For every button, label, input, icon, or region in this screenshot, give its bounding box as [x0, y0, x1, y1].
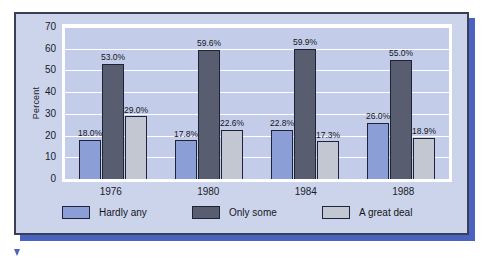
- y-axis-tick-labels: 010203040506070: [32, 27, 56, 179]
- y-tick-label: 30: [32, 109, 56, 119]
- legend-item[interactable]: Hardly any: [62, 206, 192, 219]
- bar-slot: 18.9%: [413, 27, 435, 179]
- bar-slot: 59.6%: [198, 27, 220, 179]
- bar-slot: 26.0%: [367, 27, 389, 179]
- x-tick-label: 1980: [160, 186, 258, 197]
- bar-value-label: 22.6%: [220, 119, 244, 128]
- x-tick-label: 1984: [257, 186, 355, 197]
- bar-value-label: 17.3%: [316, 131, 340, 140]
- bar[interactable]: [271, 130, 293, 180]
- bar[interactable]: [102, 64, 124, 179]
- bar-slot: 22.6%: [221, 27, 243, 179]
- legend: Hardly anyOnly someA great deal: [62, 206, 452, 219]
- chart-area: Percent 010203040506070 18.0%53.0%29.0%1…: [16, 14, 467, 233]
- bar-value-label: 55.0%: [389, 49, 413, 58]
- bar-group: 22.8%59.9%17.3%: [257, 27, 353, 179]
- caption-marker-icon: [14, 249, 20, 256]
- y-tick-label: 60: [32, 44, 56, 54]
- bar-slot: 17.3%: [317, 27, 339, 179]
- x-tick-label: 1988: [355, 186, 453, 197]
- y-tick-label: 0: [32, 174, 56, 184]
- bar-value-label: 26.0%: [366, 112, 390, 121]
- bar-slot: 59.9%: [294, 27, 316, 179]
- bar[interactable]: [390, 60, 412, 179]
- bar-group: 26.0%55.0%18.9%: [353, 27, 449, 179]
- figure: Percent 010203040506070 18.0%53.0%29.0%1…: [0, 0, 487, 265]
- bar-slot: 17.8%: [175, 27, 197, 179]
- bar[interactable]: [79, 140, 101, 179]
- bar[interactable]: [294, 49, 316, 179]
- y-tick-label: 20: [32, 131, 56, 141]
- legend-label: Only some: [229, 207, 277, 218]
- bar[interactable]: [175, 140, 197, 179]
- bar-group: 18.0%53.0%29.0%: [65, 27, 161, 179]
- legend-item[interactable]: Only some: [192, 206, 322, 219]
- bar-value-label: 17.8%: [174, 130, 198, 139]
- y-tick-label: 50: [32, 65, 56, 75]
- bar[interactable]: [413, 138, 435, 179]
- chart-panel: Percent 010203040506070 18.0%53.0%29.0%1…: [14, 12, 469, 235]
- bar-slot: 18.0%: [79, 27, 101, 179]
- bar-slot: 53.0%: [102, 27, 124, 179]
- legend-swatch: [62, 206, 90, 219]
- bar-value-label: 18.9%: [412, 127, 436, 136]
- bar-groups: 18.0%53.0%29.0%17.8%59.6%22.6%22.8%59.9%…: [65, 27, 449, 179]
- bar[interactable]: [367, 123, 389, 179]
- x-tick-label: 1976: [62, 186, 160, 197]
- x-axis-tick-labels: 1976198019841988: [62, 186, 452, 197]
- plot-area: 18.0%53.0%29.0%17.8%59.6%22.6%22.8%59.9%…: [62, 24, 452, 182]
- y-tick-label: 70: [32, 22, 56, 32]
- bar-value-label: 59.6%: [197, 39, 221, 48]
- bar-slot: 22.8%: [271, 27, 293, 179]
- bar-value-label: 29.0%: [124, 106, 148, 115]
- bar-value-label: 53.0%: [101, 53, 125, 62]
- legend-swatch: [322, 206, 350, 219]
- bar-value-label: 22.8%: [270, 119, 294, 128]
- bar[interactable]: [125, 116, 147, 179]
- legend-item[interactable]: A great deal: [322, 206, 452, 219]
- bar[interactable]: [198, 50, 220, 179]
- legend-label: Hardly any: [99, 207, 147, 218]
- y-tick-label: 10: [32, 152, 56, 162]
- bar-value-label: 18.0%: [78, 129, 102, 138]
- bar-value-label: 59.9%: [293, 38, 317, 47]
- y-tick-label: 40: [32, 87, 56, 97]
- bar[interactable]: [221, 130, 243, 179]
- bar[interactable]: [317, 141, 339, 179]
- bar-slot: 55.0%: [390, 27, 412, 179]
- legend-label: A great deal: [359, 207, 412, 218]
- bar-slot: 29.0%: [125, 27, 147, 179]
- legend-swatch: [192, 206, 220, 219]
- bar-group: 17.8%59.6%22.6%: [161, 27, 257, 179]
